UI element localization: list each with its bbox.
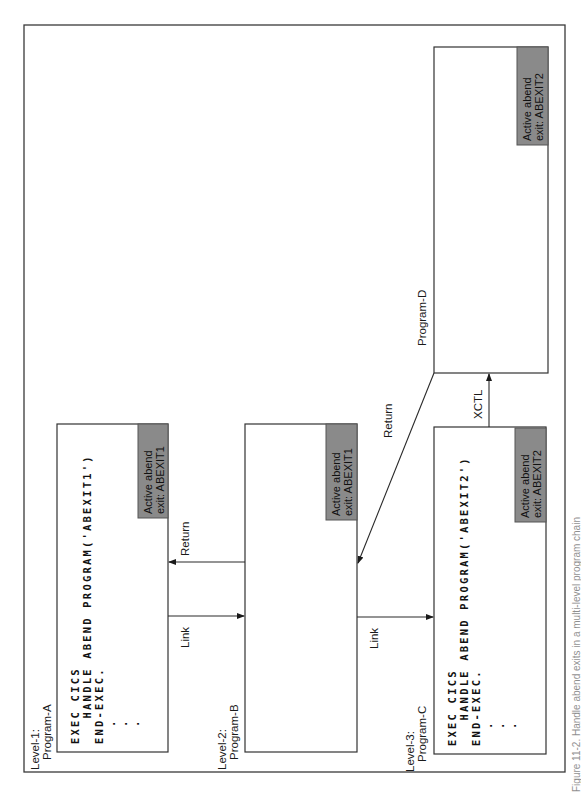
program-a-group: Active abend exit: ABEXIT1 Level-1: Prog… [29, 424, 168, 770]
arrow-return-d-to-b-label: Return [382, 403, 394, 438]
program-c-code-dots-3: . [506, 720, 518, 746]
arrow-link-b-to-c-label: Link [368, 628, 380, 649]
program-b-level-label: Level-2: [216, 729, 228, 770]
program-c-code-dots-1: . [482, 720, 494, 746]
program-b-group: Active abend exit: ABEXIT1 Level-2: Prog… [216, 424, 357, 770]
program-c-group: Active abend exit: ABEXIT2 Level-3: Prog… [404, 427, 546, 772]
program-a-code-line-2: HANDLE ABEND PROGRAM('ABEXIT1') [81, 454, 93, 744]
program-c-name: Program-C [416, 706, 428, 762]
program-c-abend-line2: exit: ABEXIT2 [531, 450, 543, 518]
figure-caption: Figure 11-2. Handle abend exits in a mul… [571, 517, 581, 792]
program-c-code-line-3: END-EXEC. [470, 669, 482, 746]
arrow-xctl-c-to-d-label: XCTL [472, 389, 484, 419]
program-c-code-line-2: HANDLE ABEND PROGRAM('ABEXIT2') [458, 456, 470, 746]
program-d-group: Active abend exit: ABEXIT2 Program-D [416, 47, 548, 373]
program-d-abend-line1: Active abend [521, 77, 533, 141]
diagram-canvas: Active abend exit: ABEXIT1 Level-1: Prog… [0, 0, 581, 798]
program-d-abend-line2: exit: ABEXIT2 [533, 73, 545, 141]
program-b-name: Program-B [228, 704, 240, 760]
program-a-code-dots-3: . [129, 718, 141, 744]
program-a-abend-line1: Active abend [142, 450, 154, 514]
program-c-level-label: Level-3: [404, 731, 416, 772]
program-b-abend-line1: Active abend [330, 452, 342, 516]
program-b-abend-line2: exit: ABEXIT1 [342, 448, 354, 516]
arrow-return-d-to-b [358, 373, 434, 563]
program-d-name: Program-D [416, 290, 428, 346]
program-a-code-dots-1: . [105, 718, 117, 744]
program-a-name: Program-A [41, 704, 53, 760]
arrow-link-a-to-b-label: Link [179, 627, 191, 648]
program-c-code-line-1: EXEC CICS [446, 669, 458, 746]
program-a-abend-line2: exit: ABEXIT1 [154, 446, 166, 514]
program-a-code-line-3: END-EXEC. [93, 667, 105, 744]
program-a-level-label: Level-1: [29, 729, 41, 770]
program-c-code-dots-2: . [494, 720, 506, 746]
arrow-return-b-to-a-label: Return [179, 521, 191, 556]
program-c-abend-line1: Active abend [519, 454, 531, 518]
program-a-code-line-1: EXEC CICS [69, 667, 81, 744]
program-a-code-dots-2: . [117, 718, 129, 744]
